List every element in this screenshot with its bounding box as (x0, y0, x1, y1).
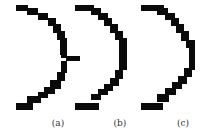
panel-a-arc (16, 5, 80, 110)
pixel-block (184, 68, 192, 77)
pixel-block (91, 94, 101, 100)
pixel-block (115, 70, 123, 79)
pixel-block (189, 46, 195, 70)
pixel-block (172, 82, 182, 89)
pixel-block (75, 103, 99, 110)
pixel-block (38, 13, 48, 20)
pixel-block (61, 61, 67, 73)
pixel-block (165, 88, 176, 95)
pixel-block (181, 31, 189, 41)
panel-c-label: (c) (177, 118, 189, 128)
pixel-block (66, 56, 80, 61)
pixel-block (16, 5, 28, 11)
panel-a-label: (a) (52, 118, 64, 128)
pixel-block (157, 94, 169, 102)
panel-c-arc (141, 5, 195, 110)
panel-b-label: (b) (114, 118, 127, 128)
panel-b-arc (75, 5, 127, 110)
pixel-block (16, 103, 33, 110)
pixel-block (119, 38, 127, 70)
pixel-block (27, 96, 41, 103)
pixel-block (141, 103, 163, 110)
pixel-block (60, 38, 67, 55)
pixel-block (27, 8, 38, 15)
pixel-block (57, 72, 65, 81)
